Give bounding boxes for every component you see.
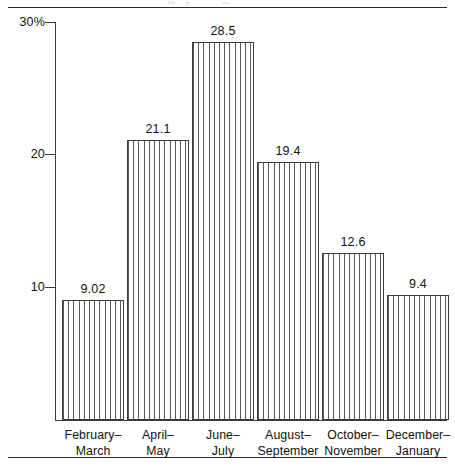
- bar-april-may[interactable]: [127, 140, 189, 420]
- bar-value-august-september: 19.4: [257, 145, 319, 158]
- y-tick-20: [45, 154, 55, 155]
- x-label-august-september: August– September: [251, 428, 325, 459]
- x-label-line1: December–: [381, 428, 455, 444]
- x-label-line2: November: [318, 444, 388, 460]
- y-tick-30: [45, 22, 55, 23]
- bar-february-march[interactable]: [62, 300, 124, 420]
- y-tick-10: [45, 287, 55, 288]
- x-label-line2: May: [123, 444, 193, 460]
- y-axis-line: [55, 22, 56, 420]
- x-label-february-march: February– March: [58, 428, 128, 459]
- y-tick-label-30: 30%: [0, 16, 45, 28]
- bar-october-november[interactable]: [322, 253, 384, 420]
- bar-value-april-may: 21.1: [127, 123, 189, 136]
- x-label-line2: July: [188, 444, 258, 460]
- x-label-line1: October–: [318, 428, 388, 444]
- x-label-line1: June–: [188, 428, 258, 444]
- x-label-line2: March: [58, 444, 128, 460]
- bar-august-september[interactable]: [257, 162, 319, 420]
- x-label-december-january: December– January: [381, 428, 455, 459]
- x-label-line1: August–: [251, 428, 325, 444]
- x-label-october-november: October– November: [318, 428, 388, 459]
- x-label-line1: February–: [58, 428, 128, 444]
- x-label-line2: January: [381, 444, 455, 460]
- plot-area: 10 20 30% 9.02 21.1 28.5 19.4 12.6 9.4 F…: [0, 0, 455, 470]
- bar-value-october-november: 12.6: [322, 236, 384, 249]
- bar-value-june-july: 28.5: [192, 25, 254, 38]
- x-label-june-july: June– July: [188, 428, 258, 459]
- bar-value-february-march: 9.02: [62, 283, 124, 296]
- x-axis-line: [55, 420, 447, 421]
- x-label-line2: September: [251, 444, 325, 460]
- x-label-line1: April–: [123, 428, 193, 444]
- bar-value-december-january: 9.4: [387, 278, 449, 291]
- y-tick-label-20: 20: [0, 148, 45, 160]
- bar-june-july[interactable]: [192, 42, 254, 420]
- bar-december-january[interactable]: [387, 295, 449, 420]
- chart-figure: 10 20 30% 9.02 21.1 28.5 19.4 12.6 9.4 F…: [0, 0, 455, 470]
- y-tick-label-10: 10: [0, 281, 45, 293]
- x-label-april-may: April– May: [123, 428, 193, 459]
